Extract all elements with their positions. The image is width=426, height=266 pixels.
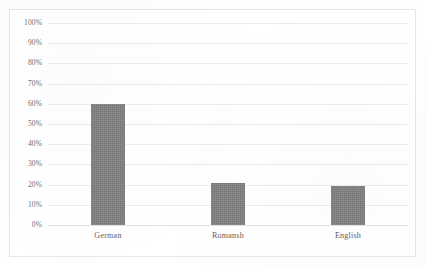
plot-area: 100%90%80%70%60%50%40%30%20%10%0%GermanR… xyxy=(48,23,408,225)
y-axis-tick-label: 90% xyxy=(28,39,42,47)
y-axis-tick-label: 20% xyxy=(28,181,42,189)
cut-off-text-line: · · · · · · · · · · · · · · · xyxy=(0,0,426,7)
gridline-90pct xyxy=(48,43,408,44)
gridline-80pct xyxy=(48,63,408,64)
gridline-0pct xyxy=(48,225,408,226)
y-axis-tick-label: 40% xyxy=(28,140,42,148)
cut-off-text: · · · · · · · · · · · · · · · xyxy=(0,0,426,2)
bar-english xyxy=(331,186,365,225)
y-axis-tick-label: 60% xyxy=(28,100,42,108)
gridline-70pct xyxy=(48,84,408,85)
y-axis-tick-label: 0% xyxy=(32,221,42,229)
y-axis-tick-label: 80% xyxy=(28,60,42,68)
x-axis-category-label-romansh: Romansh xyxy=(212,232,244,240)
y-axis-tick-label: 100% xyxy=(24,19,42,27)
x-axis-category-label-english: English xyxy=(335,232,361,240)
x-axis-category-label-german: German xyxy=(94,232,121,240)
scanned-page: · · · · · · · · · · · · · · · 100%90%80%… xyxy=(0,0,426,266)
chart-frame: 100%90%80%70%60%50%40%30%20%10%0%GermanR… xyxy=(9,9,416,257)
y-axis-tick-label: 70% xyxy=(28,80,42,88)
y-axis-tick-label: 30% xyxy=(28,161,42,169)
gridline-100pct xyxy=(48,23,408,24)
y-axis-tick-label: 50% xyxy=(28,120,42,128)
bar-romansh xyxy=(211,183,245,225)
bar-german xyxy=(91,104,125,225)
y-axis-tick-label: 10% xyxy=(28,201,42,209)
